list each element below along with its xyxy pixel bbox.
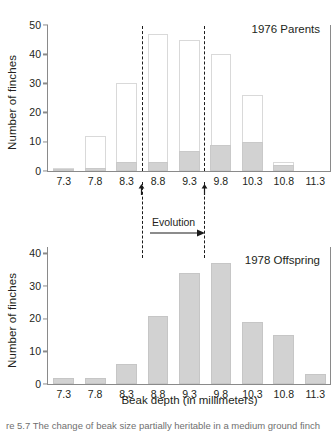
- bar-slot-10.8: 10.8: [268, 25, 299, 171]
- bar-slot-off-8.8: 8.8: [142, 247, 173, 384]
- y-tick-bottom-20: 20: [29, 314, 48, 325]
- plot-area-bottom: 40 30 20 10 0 7.3 7.8 8.3: [48, 247, 331, 384]
- y-axis-label-bottom: Number of finches: [6, 240, 18, 368]
- chart-1978-offspring: Number of finches 1978 Offspring 40 30 2…: [0, 222, 336, 417]
- bar-slot-7.3: 7.3: [48, 25, 79, 171]
- bar-off-10.3: [242, 322, 263, 384]
- bar-slot-off-10.3: 10.3: [237, 247, 268, 384]
- y-tick-bottom-0: 0: [35, 379, 48, 390]
- bar-off-8.8: [148, 316, 169, 385]
- y-axis-label-top: Number of finches: [6, 20, 18, 150]
- bar-open-8.8: [148, 34, 169, 171]
- bar-off-10.8: [273, 335, 294, 384]
- x-tick-top-10.8: 10.8: [274, 171, 294, 187]
- bar-off-11.3: [305, 374, 326, 384]
- x-tick-top-9.8: 9.8: [214, 171, 229, 187]
- bar-slot-off-8.3: 8.3: [111, 247, 142, 384]
- bar-off-9.3: [179, 273, 200, 384]
- bar-slot-off-11.3: 11.3: [300, 247, 331, 384]
- bar-group-bottom: 7.3 7.8 8.3 8.8 9.3: [48, 247, 331, 384]
- bar-open-9.3: [179, 40, 200, 171]
- y-tick-top-20: 20: [29, 107, 48, 118]
- bar-fill-8.3: [116, 162, 137, 171]
- bar-slot-9.8: 9.8: [205, 25, 236, 171]
- bar-slot-11.3: 11.3: [300, 25, 331, 171]
- bar-off-9.8: [211, 263, 232, 384]
- bar-slot-8.8: 8.8: [142, 25, 173, 171]
- bar-slot-off-9.8: 9.8: [205, 247, 236, 384]
- bar-group-top: 7.3 7.8 8.3: [48, 25, 331, 171]
- figure-caption-clipped: re 5.7 The change of beak size partially…: [6, 421, 336, 432]
- x-tick-top-10.3: 10.3: [242, 171, 262, 187]
- bar-fill-9.3: [179, 151, 200, 171]
- bar-slot-10.3: 10.3: [237, 25, 268, 171]
- bar-slot-off-7.8: 7.8: [79, 247, 110, 384]
- bar-open-7.8: [85, 136, 106, 171]
- y-tick-top-0: 0: [35, 166, 48, 177]
- y-tick-bottom-10: 10: [29, 346, 48, 357]
- y-tick-top-40: 40: [29, 49, 48, 60]
- bar-slot-9.3: 9.3: [174, 25, 205, 171]
- bar-fill-9.8: [210, 145, 231, 171]
- y-tick-top-10: 10: [29, 137, 48, 148]
- bar-fill-8.8: [148, 162, 169, 171]
- bar-slot-off-7.3: 7.3: [48, 247, 79, 384]
- plot-area-top: 50 40 30 20 10 0 7.3 7.8: [48, 25, 331, 171]
- bar-open-10.3: [242, 95, 263, 171]
- bar-slot-7.8: 7.8: [79, 25, 110, 171]
- x-tick-top-9.3: 9.3: [182, 171, 197, 187]
- x-tick-top-8.3: 8.3: [119, 171, 134, 187]
- y-tick-bottom-40: 40: [29, 248, 48, 259]
- x-axis-label: Beak depth (in millimeters): [48, 394, 331, 406]
- bar-slot-8.3: 8.3: [111, 25, 142, 171]
- bar-slot-off-10.8: 10.8: [268, 247, 299, 384]
- chart-1976-parents: Number of finches 1976 Parents 50 40 30 …: [0, 0, 336, 190]
- y-tick-top-50: 50: [29, 20, 48, 31]
- y-tick-top-30: 30: [29, 78, 48, 89]
- bar-open-9.8: [211, 54, 232, 171]
- x-tick-top-11.3: 11.3: [305, 171, 325, 187]
- x-tick-top-8.8: 8.8: [151, 171, 166, 187]
- x-tick-top-7.8: 7.8: [88, 171, 103, 187]
- y-tick-bottom-30: 30: [29, 281, 48, 292]
- bar-open-8.3: [116, 83, 137, 171]
- bar-fill-10.3: [242, 142, 263, 171]
- bar-slot-off-9.3: 9.3: [174, 247, 205, 384]
- bar-open-10.8: [273, 162, 294, 171]
- bar-off-8.3: [116, 364, 137, 384]
- x-tick-top-7.3: 7.3: [56, 171, 71, 187]
